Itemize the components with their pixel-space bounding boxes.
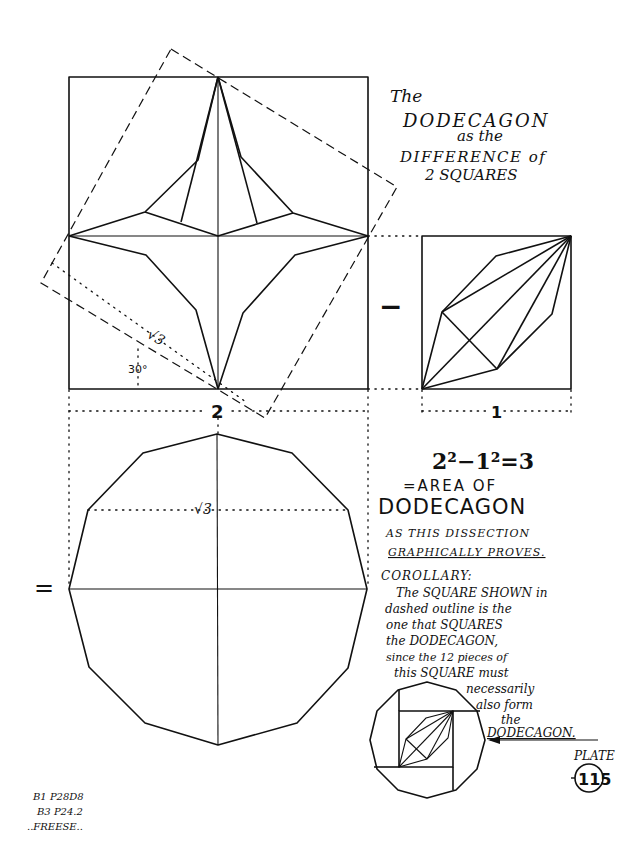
upper-left-inner — [145, 212, 218, 236]
plate-label: PLATE — [573, 749, 615, 763]
upper-right-piece — [218, 77, 368, 236]
corollary-line: since the 12 pieces of — [386, 651, 509, 664]
corollary-line: necessarily — [466, 682, 535, 696]
big-square-figure: √3 30° — [41, 49, 397, 418]
small-square-figure: 1 — [368, 236, 571, 422]
sqrt3-label-dodecagon: √3 — [194, 501, 212, 517]
dodecagon-figure: √3 — [69, 418, 368, 745]
equation-formula: 2²−1²=3 — [432, 448, 534, 474]
corollary-heading: COROLLARY: — [381, 569, 473, 583]
title-line-5: 2 SQUARES — [424, 166, 517, 184]
proof-note: AS THIS DISSECTION GRAPHICALLY PROVES. — [385, 527, 546, 559]
upper-left-spoke — [181, 77, 218, 222]
small-dodecagon-figure — [370, 682, 485, 798]
minus-sign: − — [379, 290, 402, 323]
small-square-diagonal — [422, 236, 571, 389]
title-line-1: The — [390, 86, 422, 106]
reference-line-2: B3 P24.2 — [36, 806, 83, 817]
corollary-line: this SQUARE must — [394, 666, 509, 680]
equation-line-1: =AREA OF — [403, 477, 497, 495]
corollary-line: dashed outline is the — [385, 602, 512, 616]
proof-line-1: AS THIS DISSECTION — [385, 527, 530, 540]
corollary-line: the — [501, 713, 521, 727]
angle-label: 30° — [128, 363, 148, 376]
corollary-line: one that SQUARES — [386, 618, 503, 632]
lower-right-piece — [218, 236, 368, 389]
title-block: The DODECAGON as the DIFFERENCE of 2 SQU… — [390, 86, 549, 184]
upper-left-piece — [69, 77, 218, 236]
small-dodecagon-outline — [370, 682, 485, 798]
reference-line-1: B1 P28D8 — [32, 791, 84, 802]
corollary-line: DODECAGON. — [486, 726, 576, 740]
title-line-3: as the — [457, 127, 503, 145]
proof-line-2: GRAPHICALLY PROVES. — [388, 546, 546, 559]
corollary-line: also form — [476, 698, 533, 712]
upper-right-spoke — [218, 77, 257, 223]
equals-sign: = — [34, 574, 54, 602]
plate-drawing: √3 30° 2 − 1 √3 = — [0, 0, 642, 853]
title-line-4: DIFFERENCE of — [399, 148, 547, 166]
equation-line-2: DODECAGON — [378, 495, 526, 519]
dimension-small-label: 1 — [491, 403, 502, 422]
equation-block: 2²−1²=3 =AREA OF DODECAGON — [378, 448, 534, 519]
dodecagon-vertical-axis — [217, 434, 218, 745]
dashed-square-outline — [41, 49, 397, 418]
dimension-big: 2 — [69, 390, 368, 430]
sqrt3-label-big-square: √3 — [145, 326, 169, 349]
corollary-line: The SQUARE SHOWN in — [396, 586, 547, 600]
reference-line-3: ..FREESE.. — [27, 821, 83, 832]
dimension-big-label: 2 — [211, 401, 224, 422]
plate-number: 115 — [578, 770, 611, 789]
reference-block: B1 P28D8 B3 P24.2 ..FREESE.. — [27, 791, 84, 832]
corollary-line: the DODECAGON, — [386, 634, 498, 648]
